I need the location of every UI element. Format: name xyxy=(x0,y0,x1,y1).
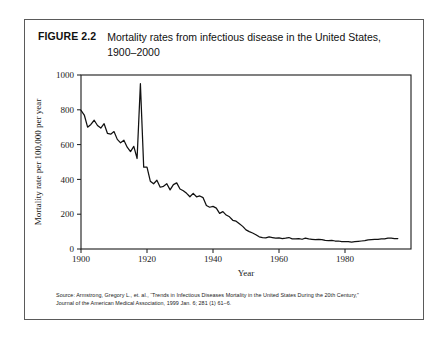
x-tick-label: 1940 xyxy=(204,254,223,264)
x-tick-label: 1900 xyxy=(72,254,91,264)
y-tick-label: 1000 xyxy=(56,70,75,80)
y-tick-label: 600 xyxy=(61,140,75,150)
source-citation: Source: Armstrong, Gregory L., et. al., … xyxy=(56,291,406,307)
mortality-line-chart: 02004006008001000 19001920194019601980 M… xyxy=(25,67,425,282)
figure-header: FIGURE 2.2 Mortality rates from infectio… xyxy=(38,30,410,59)
x-tick-label: 1920 xyxy=(138,254,157,264)
y-tick-label: 200 xyxy=(61,209,75,219)
y-tick-label: 800 xyxy=(61,105,75,115)
x-axis-ticks: 19001920194019601980 xyxy=(72,249,355,264)
source-line-2: Journal of the American Medical Associat… xyxy=(56,299,406,307)
page-title: Mortality rates from infectious disease … xyxy=(107,30,402,59)
y-tick-label: 400 xyxy=(61,175,75,185)
x-tick-label: 1960 xyxy=(270,254,289,264)
y-tick-label: 0 xyxy=(70,244,75,254)
figure-number-label: FIGURE 2.2 xyxy=(38,30,96,42)
y-axis-title: Mortality rate per 100,000 per year xyxy=(33,99,43,225)
source-line-1: Source: Armstrong, Gregory L., et. al., … xyxy=(56,291,406,299)
y-axis-ticks: 02004006008001000 xyxy=(56,70,81,254)
x-axis-title: Year xyxy=(238,268,255,278)
plot-frame xyxy=(81,75,411,249)
x-tick-label: 1980 xyxy=(336,254,355,264)
figure-container: FIGURE 2.2 Mortality rates from infectio… xyxy=(24,19,424,320)
chart-plot-area: 02004006008001000 19001920194019601980 M… xyxy=(25,67,425,282)
